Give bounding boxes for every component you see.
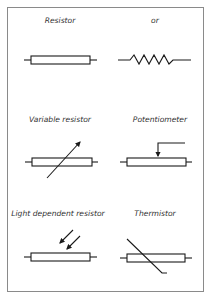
ldr-icon <box>24 230 97 261</box>
variable-resistor-icon <box>25 142 98 178</box>
zigzag-resistor-icon <box>118 55 191 64</box>
thermistor-icon <box>120 239 192 273</box>
resistor-symbol-icon <box>24 56 97 64</box>
potentiometer-icon <box>120 143 192 166</box>
symbols-canvas <box>0 0 216 303</box>
